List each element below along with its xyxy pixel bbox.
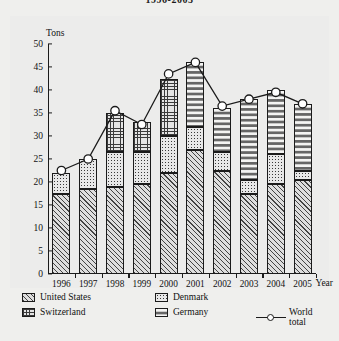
- world-total-marker-2000: [164, 70, 172, 78]
- legend-label-denmark: Denmark: [173, 292, 208, 302]
- x-tick-mark: [262, 274, 263, 278]
- x-tick-mark: [128, 274, 129, 278]
- legend-item-united-states: United States: [22, 292, 91, 302]
- legend-item-switzerland: Switzerland: [22, 307, 85, 317]
- x-tick-label-2001: 2001: [186, 279, 205, 289]
- world-total-marker-1998: [111, 107, 119, 115]
- legend-label-switzerland: Switzerland: [40, 307, 85, 317]
- x-tick-label-2002: 2002: [213, 279, 232, 289]
- world-total-marker-2005: [298, 100, 306, 108]
- y-tick-label: 45: [34, 62, 44, 72]
- y-tick-label: 20: [34, 177, 44, 187]
- y-tick-label: 35: [34, 108, 44, 118]
- x-axis-label: Year: [315, 278, 333, 288]
- y-tick-label: 15: [34, 200, 44, 210]
- world-total-marker-1996: [57, 166, 65, 174]
- x-tick-mark: [182, 274, 183, 278]
- y-tick-label: 40: [34, 85, 44, 95]
- x-tick-label-2003: 2003: [240, 279, 259, 289]
- x-tick-mark: [155, 274, 156, 278]
- y-tick-label: 30: [34, 131, 44, 141]
- x-tick-label-2000: 2000: [159, 279, 178, 289]
- y-tick-label: 5: [38, 246, 43, 256]
- world-total-marker-1997: [84, 155, 92, 163]
- x-tick-mark: [236, 274, 237, 278]
- world-total-marker-2004: [272, 88, 280, 96]
- x-tick-mark: [102, 274, 103, 278]
- legend-item-germany: Germany: [155, 307, 208, 317]
- y-axis-label: Tons: [46, 28, 64, 38]
- plot-area: Tons 05101520253035404550 19961997199819…: [48, 44, 316, 274]
- x-tick-label-1998: 1998: [106, 279, 125, 289]
- chart-legend: United States Denmark Switzerland German…: [10, 292, 329, 322]
- x-tick-mark: [289, 274, 290, 278]
- switzerland-swatch-icon: [22, 308, 35, 317]
- legend-item-denmark: Denmark: [155, 292, 208, 302]
- world-total-marker-1999: [138, 120, 146, 128]
- germany-swatch-icon: [155, 308, 168, 317]
- legend-label-germany: Germany: [173, 307, 208, 317]
- x-tick-label-2004: 2004: [267, 279, 286, 289]
- legend-label-united-states: United States: [40, 292, 91, 302]
- x-tick-mark: [75, 274, 76, 278]
- denmark-swatch-icon: [155, 293, 168, 302]
- y-tick-label: 0: [38, 269, 43, 279]
- united-states-swatch-icon: [22, 293, 35, 302]
- world-total-marker-2002: [218, 102, 226, 110]
- world-total-line-icon: [256, 313, 284, 322]
- legend-label-world-total: World total: [289, 307, 329, 327]
- y-tick-label: 10: [34, 223, 44, 233]
- x-tick-label-1997: 1997: [79, 279, 98, 289]
- legend-item-world-total: World total: [256, 307, 329, 327]
- chart-panel: Tons 05101520253035404550 19961997199819…: [10, 16, 329, 288]
- x-tick-label-1996: 1996: [52, 279, 71, 289]
- chart-title: 1996-2005: [0, 0, 339, 5]
- world-total-marker-2003: [245, 95, 253, 103]
- x-tick-label-2005: 2005: [293, 279, 312, 289]
- x-tick-mark: [209, 274, 210, 278]
- x-tick-label-1999: 1999: [133, 279, 152, 289]
- y-tick-label: 50: [34, 39, 44, 49]
- world-total-marker-2001: [191, 58, 199, 66]
- y-tick-label: 25: [34, 154, 44, 164]
